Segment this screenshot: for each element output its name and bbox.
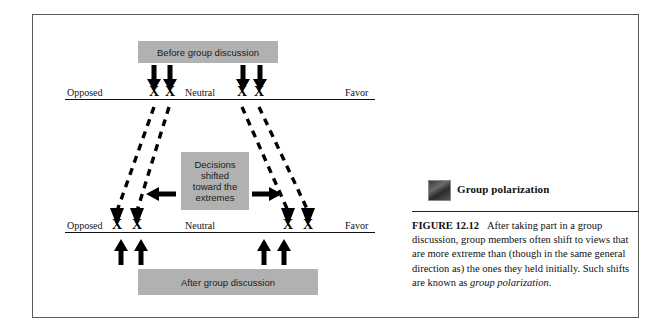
top-scale-x-mark-1: X: [149, 85, 159, 99]
up-arrow-3: [257, 239, 271, 265]
caption-italic-term: group polarization: [470, 277, 549, 288]
top-opinion-scale-line: [65, 99, 375, 100]
figure-topic-title: Group polarization: [457, 183, 549, 195]
shift-box-line-1: Decisions: [194, 159, 235, 170]
top-scale-x-mark-4: X: [254, 85, 264, 99]
top-scale-label-favor: Favor: [345, 87, 368, 98]
group-polarization-diagram: Before group discussion Opposed Neutral …: [33, 15, 401, 315]
bottom-scale-label-favor: Favor: [345, 220, 368, 231]
caption-gap: [479, 220, 487, 231]
bottom-scale-label-neutral: Neutral: [185, 220, 215, 231]
caption-period: .: [549, 277, 552, 288]
shift-box-line-4: extremes: [195, 192, 234, 203]
figure-caption-text: FIGURE 12.12 After taking part in a grou…: [412, 219, 641, 290]
bottom-scale-x-mark-2: X: [132, 218, 142, 232]
left-arrow-extremes: [146, 187, 176, 201]
caption-divider: [412, 211, 639, 212]
top-scale-label-opposed: Opposed: [67, 87, 103, 98]
shift-box-line-2: shifted: [201, 170, 229, 181]
bottom-scale-x-mark-4: X: [303, 218, 313, 232]
top-scale-x-mark-3: X: [237, 85, 247, 99]
figure-caption-panel: Group polarization FIGURE 12.12 After ta…: [395, 15, 640, 315]
top-scale-label-neutral: Neutral: [185, 87, 215, 98]
right-arrow-extremes: [252, 187, 282, 201]
up-arrow-2: [134, 239, 148, 265]
top-scale-x-mark-2: X: [165, 85, 175, 99]
bottom-scale-x-mark-1: X: [112, 218, 122, 232]
after-group-discussion-box: After group discussion: [138, 269, 318, 295]
up-arrow-1: [114, 239, 128, 265]
shift-box-line-3: toward the: [193, 181, 237, 192]
group-photo-thumbnail-icon: [428, 180, 451, 201]
figure-frame: Before group discussion Opposed Neutral …: [32, 14, 639, 318]
before-box-label: Before group discussion: [157, 47, 259, 58]
bottom-opinion-scale-line: [65, 232, 375, 233]
decisions-shifted-box: Decisions shifted toward the extremes: [181, 152, 249, 210]
up-arrow-4: [277, 239, 291, 265]
after-box-label: After group discussion: [181, 277, 275, 288]
bottom-scale-x-mark-3: X: [283, 218, 293, 232]
before-group-discussion-box: Before group discussion: [138, 41, 278, 63]
bottom-scale-label-opposed: Opposed: [67, 220, 103, 231]
caption-figure-number: FIGURE 12.12: [412, 220, 479, 231]
